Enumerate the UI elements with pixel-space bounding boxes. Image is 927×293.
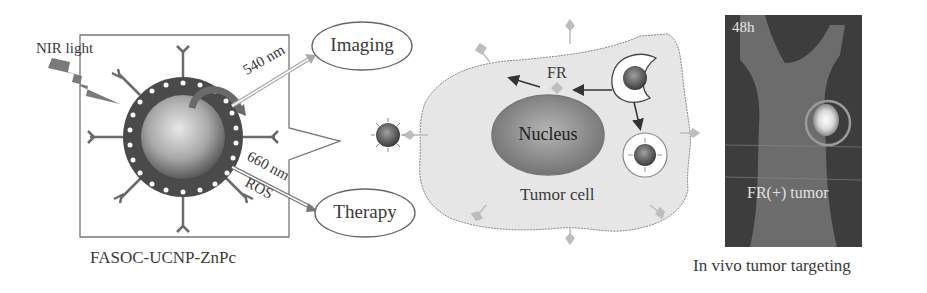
mouse-silhouette xyxy=(725,15,862,247)
time-label: 48h xyxy=(732,19,755,36)
fr-label: FR xyxy=(547,64,567,82)
endosome-vesicle xyxy=(623,133,667,177)
free-nanoparticle xyxy=(371,118,405,152)
nanoparticle-caption: FASOC-UCNP-ZnPc xyxy=(90,248,236,268)
fr-tumor-label: FR(+) tumor xyxy=(747,184,828,202)
in-vivo-caption: In vivo tumor targeting xyxy=(693,256,851,276)
nir-lightning-icon xyxy=(48,58,120,104)
therapy-label: Therapy xyxy=(315,201,415,223)
imaging-label: Imaging xyxy=(312,34,412,56)
nucleus-label: Nucleus xyxy=(492,124,604,145)
in-vivo-image: 48h FR(+) tumor xyxy=(725,15,862,247)
tumor-cell-label: Tumor cell xyxy=(520,185,594,205)
nir-light-label: NIR light xyxy=(36,40,93,57)
